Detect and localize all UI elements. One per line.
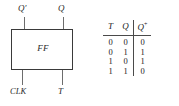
flip-flop-schematic: Q′ Q FF CLK T [0, 0, 90, 106]
flip-flop-body: FF [11, 29, 73, 70]
truth-table: T Q Q+ 0 0 0 0 1 1 1 0 [103, 20, 151, 76]
flip-flop-block-label: FF [12, 43, 74, 53]
table-row: 0 0 0 [103, 35, 151, 48]
header-q-next: Q+ [134, 20, 152, 35]
q-output-label: Q [58, 3, 65, 13]
table-header-row: T Q Q+ [103, 20, 151, 35]
header-t: T [103, 20, 118, 35]
cell-t: 1 [103, 67, 118, 77]
table-row: 1 1 0 [103, 67, 151, 77]
cell-t: 0 [103, 35, 118, 48]
q-prime-output-label: Q′ [18, 3, 26, 13]
clk-input-label: CLK [10, 86, 26, 96]
clk-input-wire [22, 70, 23, 85]
header-q-next-superscript: + [144, 21, 147, 27]
cell-q: 0 [118, 35, 134, 48]
cell-q: 1 [118, 67, 134, 77]
t-input-wire [62, 70, 63, 85]
cell-q-next: 0 [134, 35, 152, 48]
t-input-label: T [58, 86, 63, 96]
characteristic-table: T Q Q+ 0 0 0 0 1 1 1 0 [95, 0, 179, 106]
figure-root: Q′ Q FF CLK T T Q Q+ [0, 0, 179, 106]
header-q: Q [118, 20, 134, 35]
cell-q-next: 0 [134, 67, 152, 77]
